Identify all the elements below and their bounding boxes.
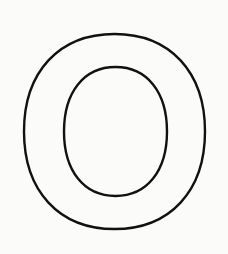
letter-o-canvas: O	[0, 0, 228, 254]
letter-o-outline-icon	[0, 0, 228, 254]
inner-contour	[64, 67, 167, 196]
outer-contour	[24, 34, 205, 229]
